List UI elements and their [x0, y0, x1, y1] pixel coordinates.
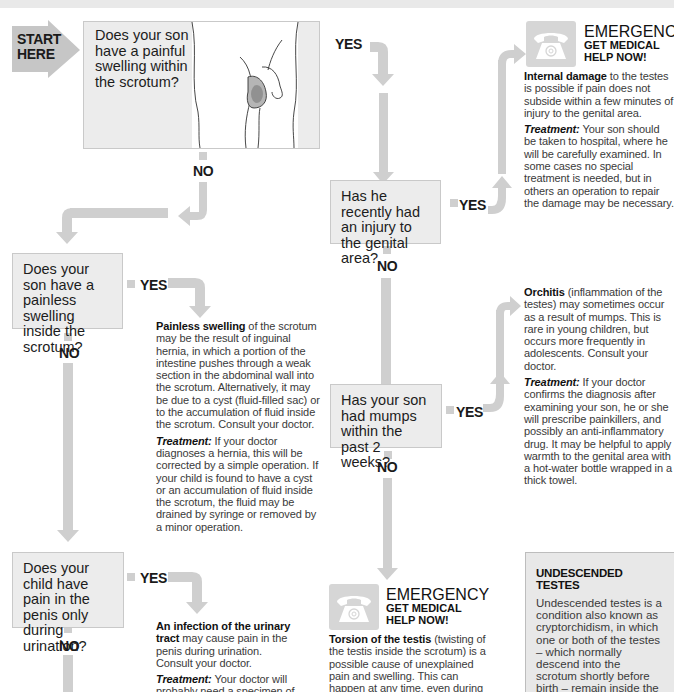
outcome-text: (inflammation of the testes) may sometim…: [524, 286, 664, 372]
q3-yes-label: YES: [140, 277, 167, 293]
treatment-label: Treatment:: [524, 376, 580, 388]
panel-title: UNDESCENDED TESTES: [536, 567, 664, 591]
outcome-lead: Internal damage: [524, 70, 607, 82]
treatment-label: Treatment:: [524, 123, 580, 135]
outcome-lead: Torsion of the testis: [329, 633, 431, 645]
question-text: Does your son have a painless swelling i…: [23, 262, 112, 355]
q4-yes-label: YES: [456, 404, 483, 420]
question-box-q3: Does your son have a painless swelling i…: [12, 253, 123, 329]
outcome-orchitis: Orchitis (inflammation of the testes) ma…: [524, 286, 674, 491]
question-box-q2: Has he recently had an injury to the gen…: [330, 180, 441, 244]
emergency-sub1: GET MEDICAL: [386, 603, 489, 615]
question-text: Does your son have a painful swelling wi…: [95, 28, 195, 90]
emergency-sub2: HELP NOW!: [386, 615, 489, 627]
treatment-text: Your son should be taken to hospital, wh…: [524, 123, 674, 209]
question-box-q4: Has your son had mumps within the past 2…: [330, 384, 442, 448]
question-box-q1: Does your son have a painful swelling wi…: [83, 21, 320, 149]
undescended-testes-panel: UNDESCENDED TESTES Undescended testes is…: [525, 552, 674, 692]
outcome-internal-damage: Internal damage to the testes is possibl…: [524, 70, 674, 213]
q5-no-label: NO: [59, 638, 79, 654]
emergency-header-2: EMERGENCY GET MEDICAL HELP NOW!: [386, 587, 489, 626]
phone-icon: [526, 21, 576, 67]
emergency-title: EMERGENCY: [584, 24, 674, 40]
outcome-lead: Painless swelling: [156, 320, 245, 332]
emergency-sub1: GET MEDICAL: [584, 40, 674, 52]
treatment-text: If your doctor diagnoses a hernia, this …: [156, 435, 318, 533]
question-text: Has he recently had an injury to the gen…: [341, 189, 430, 267]
treatment-label: Treatment:: [156, 435, 212, 447]
q2-yes-label: YES: [459, 197, 486, 213]
question-box-q5: Does your child have pain in the penis o…: [12, 552, 124, 628]
start-label-line1: START: [17, 32, 61, 47]
q3-no-label: NO: [59, 345, 79, 361]
emergency-sub2: HELP NOW!: [584, 52, 674, 64]
emergency-title: EMERGENCY: [386, 587, 489, 603]
q1-yes-label: YES: [335, 36, 362, 52]
outcome-text: of the scrotum may be the result of ingu…: [156, 320, 320, 430]
phone-icon: [329, 584, 379, 630]
emergency-header-1: EMERGENCY GET MEDICAL HELP NOW!: [584, 24, 674, 63]
start-here-marker: START HERE: [17, 32, 61, 62]
treatment-text: If your doctor confirms the diagnosis af…: [524, 376, 672, 486]
q4-no-label: NO: [377, 459, 397, 475]
start-label-line2: HERE: [17, 47, 61, 62]
outcome-painless-swelling: Painless swelling of the scrotum may be …: [156, 320, 322, 537]
q2-no-label: NO: [377, 258, 397, 274]
panel-text: Undescended testes is a condition also k…: [536, 597, 664, 692]
outcome-uti: An infection of the urinary tract may ca…: [156, 620, 296, 692]
outcome-lead: Orchitis: [524, 286, 565, 298]
illustration-swollen-scrotum: [188, 22, 302, 148]
treatment-label: Treatment:: [156, 673, 212, 685]
outcome-torsion: Torsion of the testis (twisting of the t…: [329, 633, 493, 692]
q1-no-label: NO: [193, 163, 213, 179]
q5-yes-label: YES: [140, 570, 167, 586]
